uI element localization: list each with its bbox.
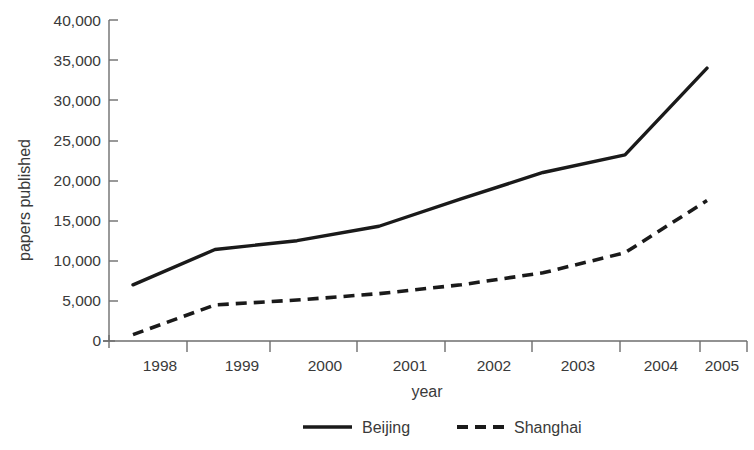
y-tick-label: 20,000 bbox=[54, 172, 102, 189]
y-tick-label: 5,000 bbox=[62, 292, 101, 309]
x-tick-label: 2000 bbox=[308, 357, 343, 374]
x-tick-label: 2001 bbox=[393, 357, 427, 374]
x-tick-label: 1999 bbox=[225, 357, 259, 374]
series-line-shanghai bbox=[133, 201, 707, 335]
legend-label-beijing: Beijing bbox=[362, 419, 410, 436]
series-line-beijing bbox=[133, 68, 707, 285]
x-tick-label: 2004 bbox=[644, 357, 679, 374]
chart-figure: papers published 0 5,000 10,000 15,000 2… bbox=[0, 0, 754, 450]
y-tick-labels: 0 5,000 10,000 15,000 20,000 25,000 30,0… bbox=[54, 12, 102, 349]
y-tick-label: 30,000 bbox=[54, 92, 102, 109]
x-tick-labels: 1998 1999 2000 2001 2002 2003 2004 2005 bbox=[143, 357, 739, 374]
x-tick-label: 2003 bbox=[561, 357, 595, 374]
legend-label-shanghai: Shanghai bbox=[514, 419, 582, 436]
chart-legend: Beijing Shanghai bbox=[303, 419, 582, 436]
y-tick-marks bbox=[103, 20, 118, 341]
x-tick-label: 2002 bbox=[477, 357, 511, 374]
x-tick-marks bbox=[109, 335, 747, 352]
x-tick-label: 2005 bbox=[705, 357, 739, 374]
y-axis-title: papers published bbox=[16, 139, 33, 261]
y-tick-label: 15,000 bbox=[54, 212, 102, 229]
y-tick-label: 10,000 bbox=[54, 252, 102, 269]
y-tick-label: 0 bbox=[92, 332, 101, 349]
x-axis-title: year bbox=[411, 383, 443, 400]
y-tick-label: 35,000 bbox=[54, 52, 102, 69]
y-tick-label: 40,000 bbox=[54, 12, 102, 29]
x-tick-label: 1998 bbox=[143, 357, 177, 374]
y-tick-label: 25,000 bbox=[54, 132, 102, 149]
line-chart: papers published 0 5,000 10,000 15,000 2… bbox=[0, 0, 754, 450]
